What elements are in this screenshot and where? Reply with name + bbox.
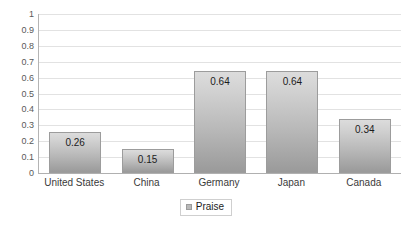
bar-value-label: 0.26	[49, 137, 101, 148]
bar-value-label: 0.64	[194, 76, 246, 87]
x-axis-category-label: Canada	[328, 176, 400, 190]
bar-group: 0.64	[194, 14, 246, 173]
y-axis-tick-label: 0.2	[4, 137, 34, 146]
bar-group: 0.15	[122, 14, 174, 173]
y-axis-tick-label: 0.8	[4, 41, 34, 50]
legend-box[interactable]: Praise	[180, 199, 232, 216]
bar-group: 0.26	[49, 14, 101, 173]
bar-chart: 10.90.80.70.60.50.40.30.20.10 0.260.150.…	[0, 0, 412, 228]
bar-value-label: 0.64	[266, 76, 318, 87]
bar-value-label: 0.34	[339, 124, 391, 135]
x-axis-category-label: Germany	[183, 176, 255, 190]
bar-group: 0.34	[339, 14, 391, 173]
legend-label-praise: Praise	[196, 201, 224, 213]
plot-area: 0.260.150.640.640.34	[38, 14, 401, 174]
y-axis-tick-label: 0.9	[4, 25, 34, 34]
x-axis-category-label: China	[110, 176, 182, 190]
y-axis-tick-label: 0.1	[4, 153, 34, 162]
x-axis-category-label: United States	[38, 176, 110, 190]
y-axis-tick-label: 0.5	[4, 89, 34, 98]
x-axis-category-label: Japan	[255, 176, 327, 190]
y-axis-tick-label: 0.7	[4, 57, 34, 66]
y-axis-tick-label: 0.6	[4, 73, 34, 82]
x-axis-category-labels: United StatesChinaGermanyJapanCanada	[38, 176, 400, 192]
bar-group: 0.64	[266, 14, 318, 173]
y-axis-tick-labels: 10.90.80.70.60.50.40.30.20.10	[0, 14, 34, 173]
bars-layer: 0.260.150.640.640.34	[39, 14, 401, 173]
y-axis-tick-label: 1	[4, 10, 34, 19]
y-axis-tick-label: 0	[4, 169, 34, 178]
legend-swatch-praise	[186, 204, 192, 210]
legend: Praise	[0, 199, 412, 216]
bar-value-label: 0.15	[122, 154, 174, 165]
y-axis-tick-label: 0.3	[4, 121, 34, 130]
y-axis-tick-label: 0.4	[4, 105, 34, 114]
